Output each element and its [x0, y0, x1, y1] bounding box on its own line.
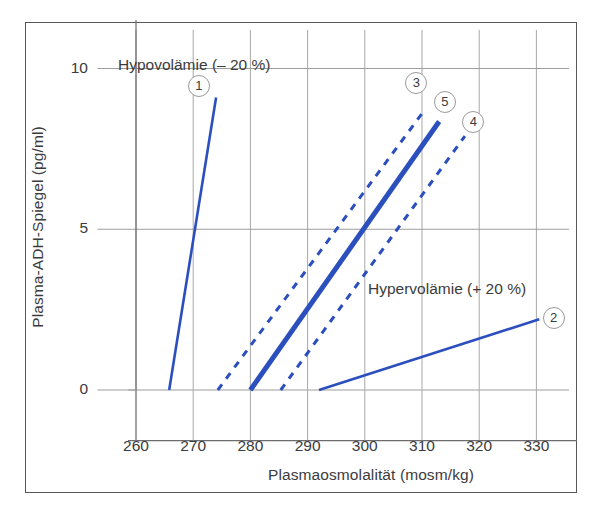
series-marker-4: 4: [462, 111, 484, 133]
x-tick-label-290: 290: [283, 437, 333, 455]
x-tick-label-270: 270: [168, 437, 218, 455]
y-tick-label-0: 0: [48, 380, 88, 398]
gridlines: [97, 30, 569, 390]
series-line-2: [319, 319, 539, 390]
series-marker-5: 5: [434, 91, 456, 113]
series-line-5: [250, 122, 439, 390]
x-tick-label-310: 310: [397, 437, 447, 455]
y-tick-label-5: 5: [48, 219, 88, 237]
x-tick-label-330: 330: [511, 437, 561, 455]
data-series: [169, 97, 539, 390]
x-tick-label-260: 260: [111, 437, 161, 455]
figure-container: 260270280290300310320330 0510 Plasma-ADH…: [0, 0, 603, 531]
x-tick-label-320: 320: [454, 437, 504, 455]
annotation-hypovolemia: Hypovolämie (– 20 %): [118, 56, 270, 74]
y-axis-title: Plasma-ADH-Spiegel (pg/ml): [29, 77, 47, 377]
x-tick-label-280: 280: [225, 437, 275, 455]
x-axis-title: Plasmaosmolalität (mosm/kg): [268, 466, 474, 484]
y-tick-label-10: 10: [48, 59, 88, 77]
series-marker-1: 1: [188, 75, 210, 97]
x-tick-label-300: 300: [340, 437, 390, 455]
annotation-hypervolemia: Hypervolämie (+ 20 %): [368, 280, 526, 298]
series-line-1: [169, 97, 216, 390]
series-marker-2: 2: [543, 307, 565, 329]
tick-marks: [136, 390, 536, 441]
series-line-3: [218, 114, 422, 390]
